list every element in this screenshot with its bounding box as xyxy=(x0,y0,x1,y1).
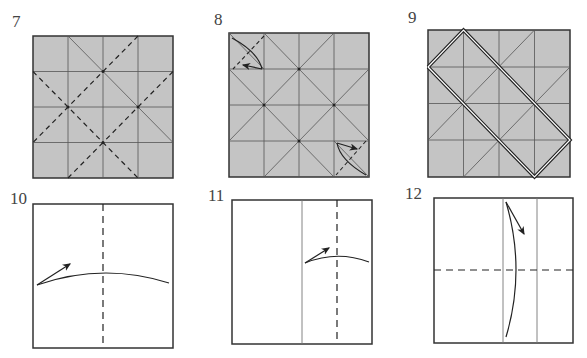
step-7-diagram xyxy=(33,36,173,178)
step-9-diagram xyxy=(428,30,570,177)
step-11-diagram xyxy=(232,200,372,344)
step-12-diagram xyxy=(434,198,573,343)
step-8-diagram xyxy=(229,33,369,177)
step-10-diagram xyxy=(33,204,173,348)
